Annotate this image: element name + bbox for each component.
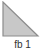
right-triangle-icon <box>2 1 40 38</box>
shape-thumbnail[interactable]: fb 1 <box>0 0 45 54</box>
triangle-shape <box>3 2 38 36</box>
thumbnail-label: fb 1 <box>0 39 45 51</box>
